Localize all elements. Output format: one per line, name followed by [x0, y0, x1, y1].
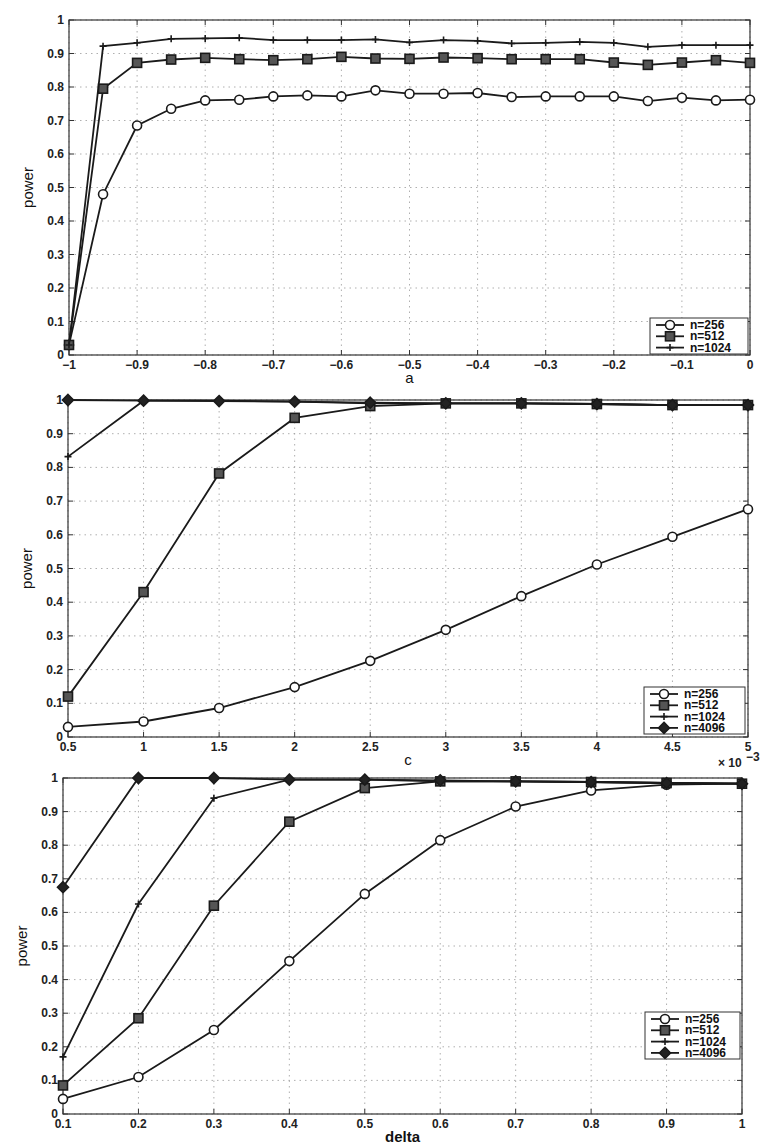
- x-tick-label: −0.1: [670, 358, 694, 372]
- grid-lines: [69, 20, 750, 355]
- series-marker: [711, 96, 720, 105]
- y-tick-label: 0.1: [47, 315, 64, 329]
- series-marker: [507, 93, 516, 102]
- series-marker: [303, 91, 312, 100]
- series-n-256: [59, 779, 747, 1103]
- x-tick-label: 0.7: [507, 1117, 524, 1131]
- series-marker: [139, 588, 148, 597]
- x-axis-ticks: 0.10.20.30.40.50.60.70.80.91: [55, 778, 746, 1131]
- series-marker: [508, 40, 515, 47]
- series-marker: [285, 817, 294, 826]
- series-n-1024: [65, 397, 752, 460]
- series-marker: [643, 60, 652, 69]
- series-marker: [236, 34, 243, 41]
- x-tick-label: 0.2: [130, 1117, 147, 1131]
- series-marker: [712, 42, 719, 49]
- y-tick-label: 0.6: [41, 905, 58, 919]
- series-marker: [746, 58, 755, 67]
- series-marker: [436, 836, 445, 845]
- series-marker: [209, 901, 218, 910]
- x-axis-label: c: [404, 751, 412, 768]
- series-marker: [139, 717, 148, 726]
- series-marker: [209, 1026, 218, 1035]
- series-marker: [678, 42, 685, 49]
- series-marker: [289, 396, 300, 407]
- series-marker: [609, 58, 618, 67]
- series-marker: [214, 396, 225, 407]
- series-marker: [473, 54, 482, 63]
- series-marker: [610, 39, 617, 46]
- grid-lines: [68, 400, 748, 737]
- series-marker: [541, 55, 550, 64]
- y-tick-label: 0.4: [47, 214, 64, 228]
- series-marker: [134, 39, 141, 46]
- y-tick-label: 0.8: [41, 838, 58, 852]
- x-tick-label: 0.6: [432, 1117, 449, 1131]
- series-marker: [371, 54, 380, 63]
- power-charts-figure: −1−0.9−0.8−0.7−0.6−0.5−0.4−0.3−0.2−0.100…: [0, 0, 760, 1147]
- legend-marker: [661, 1015, 670, 1024]
- y-tick-label: 0.9: [41, 805, 58, 819]
- y-axis-label: power: [19, 167, 36, 208]
- y-tick-label: 0.7: [47, 114, 64, 128]
- series-marker: [644, 43, 651, 50]
- x-tick-label: 3.5: [513, 740, 530, 754]
- x-axis-label: delta: [385, 1128, 421, 1145]
- series-n-512: [59, 777, 747, 1090]
- series-marker: [337, 92, 346, 101]
- series-marker: [167, 55, 176, 64]
- x-axis-label: a: [405, 369, 414, 386]
- series-marker: [290, 413, 299, 422]
- power-vs-a-chart: −1−0.9−0.8−0.7−0.6−0.5−0.4−0.3−0.2−0.100…: [19, 13, 755, 386]
- series-marker: [59, 1081, 68, 1090]
- y-axis-label: power: [13, 926, 30, 967]
- series-marker: [133, 58, 142, 67]
- y-tick-label: 0.1: [41, 1073, 58, 1087]
- series-marker: [285, 957, 294, 966]
- y-tick-label: 0.5: [41, 939, 58, 953]
- x-tick-label: 1: [140, 740, 147, 754]
- series-marker: [360, 889, 369, 898]
- series-marker: [133, 773, 144, 784]
- x-tick-label: 0.4: [281, 1117, 298, 1131]
- power-vs-delta-chart: 0.10.20.30.40.50.60.70.80.9100.10.20.30.…: [13, 771, 748, 1145]
- x-axis-multiplier: × 10: [718, 756, 742, 770]
- series-marker: [439, 89, 448, 98]
- series-marker: [592, 560, 601, 569]
- series-marker: [643, 97, 652, 106]
- series-marker: [474, 37, 481, 44]
- series-n-512: [64, 399, 753, 701]
- series-marker: [440, 37, 447, 44]
- x-tick-label: 0: [747, 358, 754, 372]
- x-tick-label: −0.7: [261, 358, 285, 372]
- series-marker: [134, 1014, 143, 1023]
- series-marker: [99, 190, 108, 199]
- series-marker: [201, 53, 210, 62]
- series-marker: [58, 882, 69, 893]
- x-tick-label: −0.4: [466, 358, 490, 372]
- series-marker: [439, 53, 448, 62]
- y-axis-label: power: [18, 548, 35, 589]
- series-marker: [202, 35, 209, 42]
- series-marker: [746, 95, 755, 104]
- series-marker: [405, 89, 414, 98]
- series-marker: [668, 532, 677, 541]
- legend-entry: n=4096: [685, 1046, 726, 1060]
- grid-lines: [63, 778, 742, 1114]
- series-marker: [269, 92, 278, 101]
- legend-marker: [660, 690, 669, 699]
- series-marker: [371, 86, 380, 95]
- plot-frame: [63, 778, 742, 1114]
- series-marker: [167, 104, 176, 113]
- y-tick-label: 0.6: [47, 147, 64, 161]
- legend-marker: [666, 321, 675, 330]
- series-marker: [303, 55, 312, 64]
- series-marker: [168, 35, 175, 42]
- y-tick-label: 0.5: [47, 181, 64, 195]
- series-marker: [576, 38, 583, 45]
- series-marker: [60, 1053, 67, 1060]
- x-tick-label: −0.6: [330, 358, 354, 372]
- x-tick-label: 0.3: [206, 1117, 223, 1131]
- series-marker: [575, 55, 584, 64]
- y-tick-label: 0.2: [41, 1040, 58, 1054]
